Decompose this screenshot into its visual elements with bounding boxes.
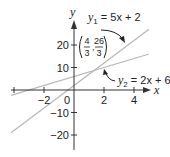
svg-text:y1 = 5x + 2: y1 = 5x + 2 — [87, 10, 141, 26]
chart: −2 0 2 4 x 20 10 −10 −20 y y1 = 5x + 2 y… — [0, 0, 170, 157]
x-tick-label: 4 — [131, 94, 137, 106]
eq1-arrowhead-icon — [119, 36, 125, 43]
y-axis-arrow-icon — [71, 20, 77, 29]
y-tick-label: −20 — [50, 129, 69, 141]
y-axis-label: y — [69, 5, 76, 19]
y-tick-label: 20 — [57, 39, 69, 51]
x-tick-label: 2 — [101, 94, 107, 106]
point-x-den: 3 — [84, 48, 89, 58]
eq2-rhs: = 2x + 6 — [128, 74, 170, 86]
point-x-num: 4 — [84, 36, 89, 46]
y-tick-label: −10 — [50, 107, 69, 119]
eq2-arrow-icon — [106, 73, 115, 81]
eq2-annotation: y2 = 2x + 6 — [103, 69, 170, 89]
intersection-label: 4 3 , 26 3 — [80, 36, 107, 58]
x-axis-arrow-icon — [143, 87, 151, 93]
y-tick-label: 10 — [57, 62, 69, 74]
point-y-num: 26 — [94, 36, 104, 46]
x-tick-label: 0 — [64, 94, 70, 106]
svg-text:y2 = 2x + 6: y2 = 2x + 6 — [117, 73, 170, 89]
x-tick-label: −2 — [38, 94, 51, 106]
y-axis: 20 10 −10 −20 y — [50, 5, 77, 150]
eq2-arrowhead-icon — [103, 69, 108, 75]
eq1-rhs: = 5x + 2 — [98, 11, 141, 23]
x-axis: −2 0 2 4 x — [11, 83, 160, 106]
point-y-den: 3 — [96, 48, 101, 58]
